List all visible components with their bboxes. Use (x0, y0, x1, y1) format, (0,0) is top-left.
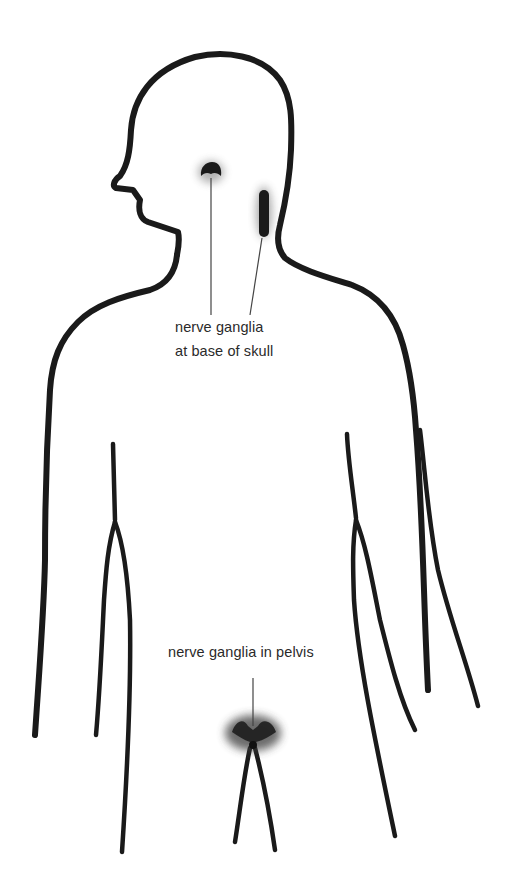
right-arm-outer-branch (356, 520, 415, 730)
left-arm-outer-branch (115, 522, 130, 852)
left-leg-line (235, 748, 250, 842)
left-arm-inner-branch (96, 522, 115, 735)
label-ganglia-pelvis: nerve ganglia in pelvis (168, 640, 314, 664)
right-arm-upper (347, 434, 356, 518)
ganglion-skull-side-icon (256, 186, 272, 238)
right-arm-inner-branch (353, 520, 395, 836)
label-skull-line1: nerve ganglia (175, 315, 273, 339)
left-torso-outline (35, 255, 177, 735)
body-diagram (0, 0, 523, 892)
leader-line-skull-side (250, 238, 262, 315)
head-outline (114, 54, 428, 690)
body-outline (35, 54, 428, 735)
right-leg-line (255, 748, 275, 850)
label-skull-line2: at base of skull (175, 339, 273, 363)
label-ganglia-skull: nerve ganglia at base of skull (175, 315, 273, 363)
leg-lines (235, 748, 275, 850)
label-pelvis-text: nerve ganglia in pelvis (168, 640, 314, 664)
left-arm-upper (113, 444, 115, 520)
